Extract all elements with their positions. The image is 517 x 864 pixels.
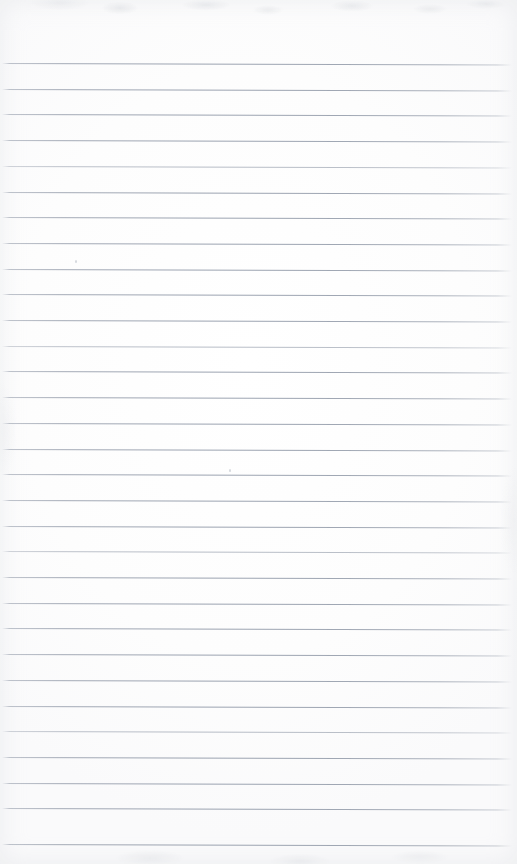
- paper-background: [0, 0, 517, 864]
- scanned-page: [0, 0, 517, 864]
